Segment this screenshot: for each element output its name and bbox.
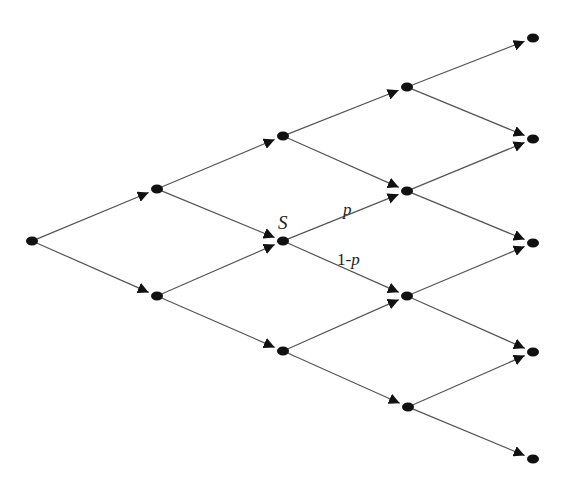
down-probability-label: 1-p	[337, 250, 360, 269]
edge-n3_3-n4_4	[413, 409, 525, 456]
node-n3_0	[401, 82, 413, 91]
node-n0_0	[26, 236, 38, 245]
edge-n0_0-n1_0	[37, 192, 149, 239]
edge-n0_0-n1_1	[37, 243, 149, 292]
node-n4_2	[527, 238, 539, 247]
node-n3_3	[402, 402, 414, 411]
edge-n1_0-n2_1	[162, 191, 275, 238]
node-n2_0	[277, 131, 289, 140]
edge-n3_1-n4_2	[412, 193, 525, 240]
node-n4_4	[527, 454, 539, 463]
edge-n3_2-n4_2	[412, 246, 525, 294]
node-n2_2	[277, 346, 289, 355]
edge-n2_0-n3_0	[288, 90, 399, 134]
node-label-s: S	[278, 212, 288, 233]
node-n3_2	[401, 291, 413, 300]
node-n2_1	[277, 236, 289, 245]
edge-n2_2-n3_2	[288, 300, 399, 349]
node-group	[26, 33, 539, 463]
edge-n3_0-n4_1	[412, 89, 525, 136]
node-n4_3	[527, 347, 539, 356]
edge-n1_0-n2_0	[162, 139, 275, 187]
edge-n2_0-n3_1	[288, 138, 399, 187]
node-n4_1	[527, 134, 539, 143]
edge-group	[37, 41, 525, 455]
down-probability-prefix: 1-	[337, 250, 352, 269]
down-probability-var: p	[350, 250, 360, 269]
edge-n3_3-n4_3	[413, 356, 525, 405]
node-n3_1	[401, 186, 413, 195]
node-n4_0	[527, 33, 539, 42]
edge-n3_0-n4_0	[412, 41, 525, 85]
edge-n1_1-n2_2	[162, 298, 275, 347]
edge-n3_2-n4_3	[412, 298, 525, 348]
binomial-tree-diagram: S p 1-p	[0, 0, 571, 488]
node-n1_1	[151, 291, 163, 300]
up-probability-label: p	[342, 200, 352, 219]
edge-n3_1-n4_1	[412, 142, 525, 189]
node-n1_0	[151, 184, 163, 193]
edge-n2_2-n3_3	[288, 353, 400, 403]
edge-n1_1-n2_1	[162, 245, 275, 294]
